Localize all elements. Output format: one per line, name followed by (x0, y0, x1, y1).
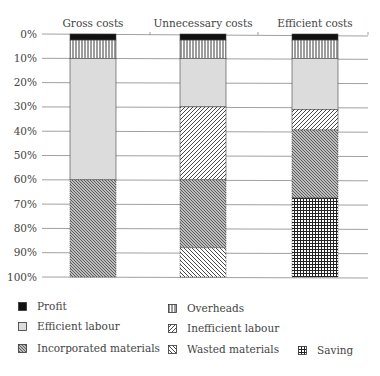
bar-unnecessary-costs (180, 34, 226, 277)
y-tick-label: 60% (14, 173, 37, 185)
legend-label: Incorporated materials (37, 342, 160, 354)
legend-item-saving: Saving (298, 344, 353, 356)
y-tick-label: 20% (14, 76, 37, 88)
legend-swatch-icon (168, 304, 177, 313)
legend-label: Inefficient labour (187, 322, 279, 334)
bar-gross-costs (70, 34, 116, 277)
y-tick-label: 40% (14, 125, 37, 137)
legend-label: Saving (317, 344, 353, 356)
bar-segment-profit (70, 34, 116, 40)
legend-swatch-icon (168, 324, 177, 333)
bar-segment-inefficient-labour (180, 107, 226, 180)
legend-item-incorporated-materials: Incorporated materials (18, 342, 160, 354)
category-labels: Gross costsUnnecessary costsEfficient co… (62, 17, 352, 29)
legend-swatch-icon (18, 322, 27, 331)
bar-segment-efficient-labour (292, 58, 338, 109)
y-tick-label: 50% (14, 149, 37, 161)
bar-segment-overheads (70, 40, 116, 58)
bar-efficient-costs (292, 34, 338, 277)
legend-label: Efficient labour (37, 320, 120, 332)
legend-swatch-icon (18, 344, 27, 353)
category-label: Unnecessary costs (153, 17, 252, 29)
y-tick-label: 70% (14, 198, 37, 210)
legend-swatch-icon (18, 302, 27, 311)
legend-swatch-icon (298, 346, 307, 355)
y-tick-label: 0% (20, 28, 37, 40)
y-tick-label: 80% (14, 222, 37, 234)
legend-item-profit: Profit (18, 300, 67, 312)
y-tick-label: 90% (14, 246, 37, 258)
bar-segment-efficient-labour (70, 58, 116, 180)
bar-segment-wasted-materials (180, 248, 226, 277)
legend-item-wasted-materials: Wasted materials (168, 343, 279, 355)
bar-segment-overheads (180, 40, 226, 58)
bars (70, 34, 338, 277)
bar-segment-incorporated-materials (292, 130, 338, 198)
bar-segment-saving (292, 198, 338, 277)
y-tick-label: 10% (14, 52, 37, 64)
legend-label: Profit (37, 300, 67, 312)
bar-segment-efficient-labour (180, 58, 226, 107)
bar-segment-overheads (292, 40, 338, 58)
bar-segment-inefficient-labour (292, 109, 338, 130)
legend-label: Wasted materials (187, 343, 279, 355)
category-label: Efficient costs (277, 17, 352, 29)
legend-item-efficient-labour: Efficient labour (18, 320, 120, 332)
y-axis-tick-labels: 0%10%20%30%40%50%60%70%80%90%100% (7, 28, 37, 283)
legend-label: Overheads (187, 302, 244, 314)
legend-swatch-icon (168, 345, 177, 354)
y-tick-label: 100% (7, 271, 37, 283)
legend-item-inefficient-labour: Inefficient labour (168, 322, 279, 334)
legend-item-overheads: Overheads (168, 302, 244, 314)
bar-segment-profit (292, 34, 338, 40)
category-label: Gross costs (62, 17, 123, 29)
bar-segment-incorporated-materials (180, 180, 226, 248)
y-tick-label: 30% (14, 100, 37, 112)
stacked-bar-chart: 0%10%20%30%40%50%60%70%80%90%100% Gross … (0, 0, 380, 290)
bar-segment-profit (180, 34, 226, 40)
bar-segment-incorporated-materials (70, 180, 116, 277)
